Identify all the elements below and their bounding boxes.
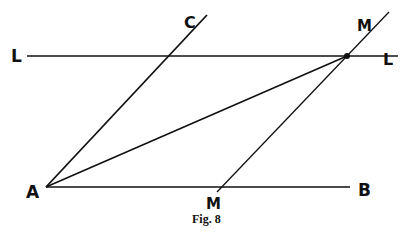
label-A: A bbox=[26, 182, 40, 202]
geometry-diagram: L L C M A M B Fig. 8 bbox=[0, 0, 407, 237]
figure-caption: Fig. 8 bbox=[192, 212, 221, 226]
line-AC bbox=[46, 15, 207, 187]
label-L-left: L bbox=[11, 46, 22, 66]
label-C: C bbox=[184, 13, 196, 32]
label-M-bottom: M bbox=[206, 195, 221, 213]
intersection-point bbox=[344, 53, 350, 59]
line-A-intersection bbox=[46, 56, 347, 187]
label-M-top: M bbox=[357, 17, 372, 35]
label-L-right: L bbox=[383, 50, 393, 69]
label-B: B bbox=[358, 180, 371, 200]
